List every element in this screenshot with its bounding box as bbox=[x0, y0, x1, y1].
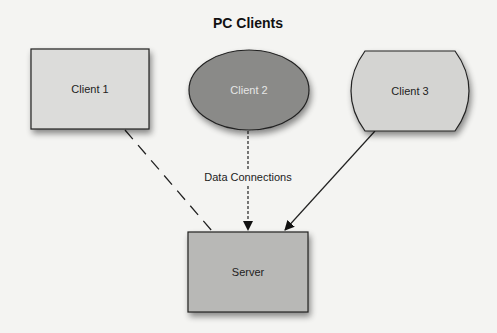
edge-client3-server bbox=[285, 131, 375, 230]
node-client-3[interactable]: Client 3 bbox=[351, 51, 469, 131]
node-client-2[interactable]: Client 2 bbox=[189, 50, 309, 130]
client-2-label: Client 2 bbox=[230, 84, 267, 96]
diagram-title: PC Clients bbox=[213, 15, 283, 31]
client-3-label: Client 3 bbox=[391, 85, 428, 97]
node-client-1[interactable]: Client 1 bbox=[31, 49, 149, 129]
edge-client1-server bbox=[125, 130, 212, 231]
node-server[interactable]: Server bbox=[188, 232, 308, 312]
edge-label-data-connections: Data Connections bbox=[204, 171, 292, 183]
server-label: Server bbox=[232, 266, 265, 278]
diagram-canvas: PC Clients Data Connections Client 1 Cli… bbox=[0, 0, 497, 333]
client-1-label: Client 1 bbox=[71, 83, 108, 95]
